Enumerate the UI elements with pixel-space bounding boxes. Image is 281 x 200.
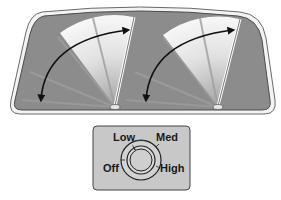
right-wiper-pivot [213, 105, 223, 110]
left-wiper-pivot [110, 105, 120, 110]
speed-knob[interactable] [121, 140, 161, 180]
wiper-diagram: Low Med Off High [0, 0, 281, 200]
wiper-speed-control: Low Med Off High [93, 126, 190, 190]
label-med: Med [156, 131, 178, 143]
label-off: Off [103, 162, 119, 174]
label-high: High [160, 162, 185, 174]
label-low: Low [113, 131, 135, 143]
